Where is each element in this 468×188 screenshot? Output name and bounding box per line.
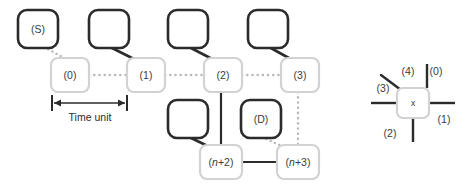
dark-node-empty-3-box[interactable]: [248, 10, 288, 48]
dark-node[interactable]: [168, 100, 208, 138]
slot-0-label: (0): [64, 69, 77, 81]
slot-node[interactable]: (0): [51, 58, 89, 92]
dark-node-s-label: (S): [31, 23, 45, 35]
slot-node[interactable]: (n+3): [277, 145, 319, 179]
dark-node-empty-2-box[interactable]: [168, 10, 208, 48]
slot-3-label: (3): [294, 69, 307, 81]
dark-node-empty-1-box[interactable]: [89, 10, 129, 48]
slot-node[interactable]: (2): [204, 58, 242, 92]
legend-port-3-label: (3): [377, 82, 390, 94]
legend-port-4-label: (4): [402, 65, 415, 77]
slot-n2-label: (n+2): [209, 156, 234, 168]
dark-node[interactable]: [89, 10, 129, 48]
slot-node[interactable]: (n+2): [200, 145, 242, 179]
dark-node[interactable]: (S): [18, 10, 58, 48]
slot-n3-label: (n+3): [286, 156, 311, 168]
dark-node[interactable]: [248, 10, 288, 48]
diagram-canvas: (0) (1) (2) (3) (n+2) (n+3) (S): [0, 0, 468, 188]
ruler-label: Time unit: [69, 111, 112, 123]
dark-node-d-label: (D): [254, 113, 269, 125]
legend-port-2-label: (2): [384, 127, 397, 139]
dark-node[interactable]: (D): [241, 100, 281, 138]
slot-node[interactable]: (3): [281, 58, 319, 92]
legend-port-0-label: (0): [430, 65, 443, 77]
slot-node[interactable]: (1): [127, 58, 165, 92]
slot-2-label: (2): [217, 69, 230, 81]
dark-node-empty-4-box[interactable]: [168, 100, 208, 138]
slot-1-label: (1): [140, 69, 153, 81]
legend-port-1-label: (1): [438, 113, 451, 125]
dark-node[interactable]: [168, 10, 208, 48]
